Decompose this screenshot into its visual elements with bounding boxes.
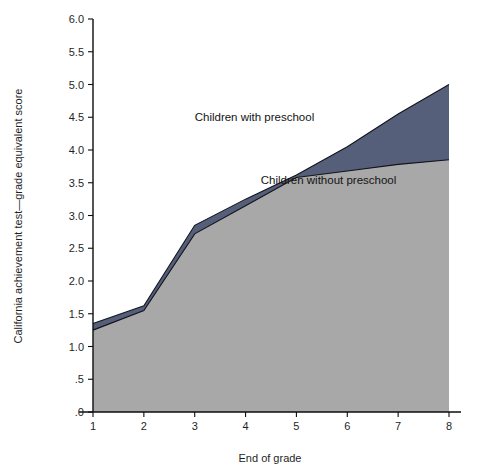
chart-container: .0.51.01.52.02.53.03.54.04.55.05.56.0 12… — [0, 0, 503, 476]
y-axis-title: California achievement test—grade equiva… — [12, 89, 24, 344]
y-tick-label: 1.0 — [69, 341, 84, 353]
y-tick-label: 5.5 — [69, 46, 84, 58]
x-tick-label: 4 — [243, 420, 249, 432]
y-tick-label: 2.0 — [69, 275, 84, 287]
x-tick-label: 1 — [90, 420, 96, 432]
x-tick-label: 6 — [344, 420, 350, 432]
y-tick-label: 3.0 — [69, 210, 84, 222]
y-tick-label: 2.5 — [69, 242, 84, 254]
y-tick-label: 4.5 — [69, 111, 84, 123]
series-label-without-preschool: Children without preschool — [261, 174, 397, 186]
y-tick-label: 3.5 — [69, 177, 84, 189]
series-label-with-preschool: Children with preschool — [195, 111, 315, 123]
x-tick-label: 5 — [293, 420, 299, 432]
y-tick-label: 1.5 — [69, 308, 84, 320]
x-axis-title: End of grade — [239, 452, 302, 464]
x-tick-label: 7 — [395, 420, 401, 432]
y-tick-label: 4.0 — [69, 144, 84, 156]
x-tick-label: 8 — [446, 420, 452, 432]
y-tick-label: 6.0 — [69, 13, 84, 25]
y-tick-label: .5 — [75, 373, 84, 385]
y-tick-label: 5.0 — [69, 79, 84, 91]
y-tick-label: .0 — [75, 406, 84, 418]
x-tick-label: 2 — [141, 420, 147, 432]
area-chart: .0.51.01.52.02.53.03.54.04.55.05.56.0 12… — [0, 0, 503, 476]
x-tick-label: 3 — [192, 420, 198, 432]
